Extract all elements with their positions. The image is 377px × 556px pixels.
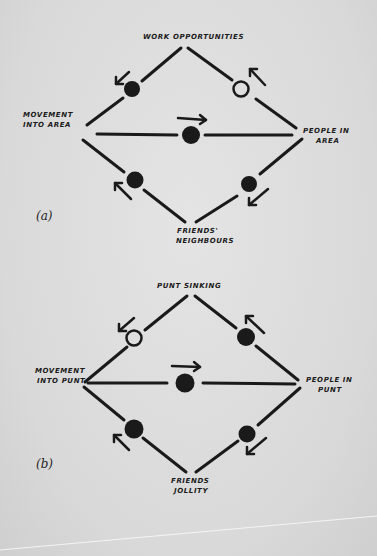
edge-b-top-left-lower bbox=[85, 347, 127, 382]
node-label-punt-sinking: PUNT SINKING bbox=[157, 282, 221, 291]
edge-b-bottom-left-upper bbox=[84, 387, 124, 420]
node-label-movement-into-punt-line2: INTO PUNT bbox=[37, 377, 85, 386]
node-label-friends-jollity-line1: FRIENDS bbox=[171, 477, 209, 486]
node-b-top-left-open bbox=[127, 331, 142, 346]
node-label-friends-jollity-line2: JOLLITY bbox=[174, 487, 208, 496]
edge-b-bottom-right-upper bbox=[258, 388, 300, 425]
arrow-up-left-icon bbox=[114, 435, 129, 450]
edge-b-center-right bbox=[203, 383, 295, 384]
edge-b-top-right-lower bbox=[256, 346, 298, 380]
node-b-bottom-left-filled bbox=[125, 420, 144, 439]
node-label-people-in-punt-line1: PEOPLE IN bbox=[306, 376, 353, 385]
node-label-movement-into-punt-line1: MOVEMENT bbox=[35, 367, 85, 376]
edge-b-top-left-upper bbox=[145, 296, 187, 330]
node-b-top-right-filled bbox=[237, 328, 255, 346]
panel-label-b: (b) bbox=[36, 457, 53, 471]
arrow-right-icon bbox=[172, 362, 200, 371]
edge-b-top-right-upper bbox=[195, 296, 236, 328]
edge-b-bottom-left-lower bbox=[143, 438, 186, 472]
diagram-b-graph bbox=[0, 0, 377, 556]
edge-b-bottom-right-lower bbox=[196, 441, 238, 472]
node-label-people-in-punt-line2: PUNT bbox=[318, 386, 342, 395]
arrow-down-left-icon bbox=[119, 318, 134, 331]
node-b-center-filled bbox=[176, 374, 195, 393]
node-b-bottom-right-filled bbox=[239, 426, 256, 443]
